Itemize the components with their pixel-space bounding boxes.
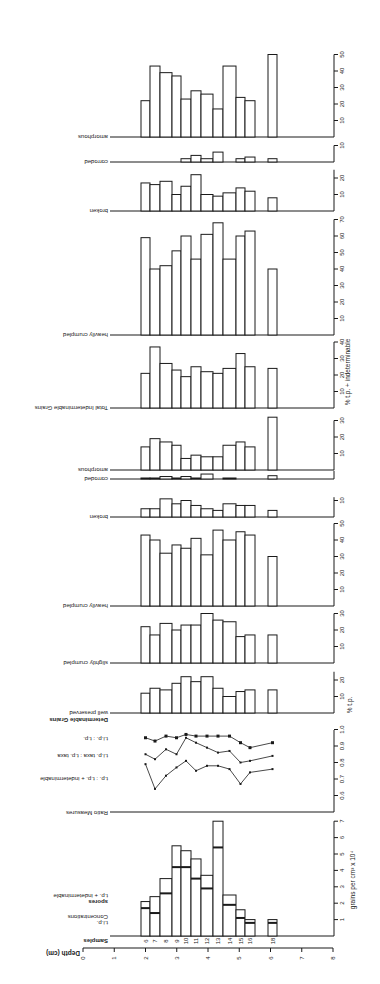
sample-label: 12: [204, 937, 210, 944]
axis-tick-label: 30: [339, 553, 345, 560]
panel-ind-broken: [110, 170, 338, 211]
bar: [236, 354, 245, 408]
panel-det-heavily-crumpled: [110, 524, 338, 607]
bar: [172, 76, 181, 137]
axis-tick-label: 10: [339, 191, 345, 198]
axis-tick-label: 10: [339, 643, 345, 650]
axis-tick-label: 0.7: [339, 774, 345, 783]
axis-tick-label: 50: [339, 51, 345, 58]
axis-tick-label: 20: [339, 676, 345, 683]
bar: [268, 269, 277, 335]
depth-tick-label: 3: [174, 956, 180, 960]
bar: [236, 692, 245, 713]
bar: [236, 97, 245, 137]
bar: [160, 553, 172, 606]
bar: [201, 555, 213, 606]
panel-det-slightly-crumpled: [110, 614, 338, 664]
bar: [213, 373, 223, 408]
series-label: t.i.p. : t.p.: [83, 736, 108, 742]
bar: [172, 846, 181, 936]
series-label: t.p. : t.p. + indeterminable: [39, 776, 108, 782]
axis-tick-label: 60: [339, 232, 345, 239]
bar: [191, 91, 201, 137]
bar: [236, 236, 245, 335]
bar: [172, 478, 181, 479]
panel-total-indeterminable: [110, 342, 338, 408]
bar: [181, 477, 191, 479]
bar: [160, 266, 172, 335]
bar: [201, 509, 213, 517]
bar: [213, 620, 223, 663]
bar: [172, 195, 181, 212]
bar: [181, 99, 191, 137]
bar: [160, 442, 172, 470]
bar: [223, 193, 236, 211]
bar: [181, 625, 191, 663]
axis-tick-label: 4: [339, 868, 345, 872]
panel-label: heavily crumpled: [63, 603, 108, 609]
panel-ind-corroded: [110, 146, 338, 163]
bar: [141, 693, 150, 713]
bar: [213, 109, 223, 137]
bar: [181, 548, 191, 606]
axis-tick-label: 20: [339, 569, 345, 576]
bar: [141, 509, 150, 517]
bar: [245, 367, 255, 408]
bar: [160, 477, 172, 479]
axis-tick-label: 10: [339, 142, 345, 149]
bar: [245, 535, 255, 606]
panel-label: heavily crumpled: [63, 332, 108, 338]
samples-label: Samples: [83, 938, 108, 944]
bar: [141, 238, 150, 335]
bar: [268, 557, 277, 607]
bar: [160, 73, 172, 137]
panel-label: corroded: [84, 476, 108, 482]
axis-tick-label: 7: [339, 819, 345, 823]
bar: [172, 504, 181, 517]
bar: [213, 196, 223, 211]
panel-concentrations: [110, 821, 338, 936]
bar: [191, 625, 201, 663]
bar: [268, 159, 277, 162]
bar: [160, 623, 172, 663]
bar: [201, 195, 213, 212]
bar: [268, 417, 277, 470]
axis-tick-label: 6: [339, 835, 345, 839]
bar: [268, 55, 277, 138]
bar: [181, 377, 191, 408]
bar: [172, 630, 181, 663]
bar: [201, 614, 213, 664]
bar: [141, 183, 150, 211]
bar: [191, 259, 201, 335]
sample-label: 6: [143, 939, 149, 943]
depth-tick-label: 8: [330, 956, 336, 960]
bar: [268, 690, 277, 713]
bar: [201, 234, 213, 335]
sample-label: 16: [247, 937, 253, 944]
bar: [201, 159, 213, 162]
bar: [223, 445, 236, 470]
bar: [213, 530, 223, 606]
axis-tick-label: 10: [339, 450, 345, 457]
bar: [268, 510, 277, 517]
bar: [201, 372, 213, 408]
bar: [245, 505, 255, 517]
panel-label: Concentrations: [68, 914, 108, 920]
bar: [172, 683, 181, 713]
bar: [150, 540, 160, 606]
bar: [268, 198, 277, 211]
bar: [245, 101, 255, 137]
bar: [141, 373, 150, 408]
legend-label: t.i.p.: [96, 920, 108, 926]
axis-tick-label: 70: [339, 216, 345, 223]
panel-ratio-measures: [110, 730, 338, 813]
bar: [236, 159, 245, 162]
bar: [150, 478, 160, 479]
bar: [191, 155, 201, 162]
bar: [160, 363, 172, 408]
axis-tick-label: 10: [339, 497, 345, 504]
bar: [191, 367, 201, 408]
bar: [201, 457, 213, 470]
panel-label: amorphous: [78, 134, 108, 140]
axis-title-concentration: grains per cm³ x 10⁴: [349, 851, 357, 910]
